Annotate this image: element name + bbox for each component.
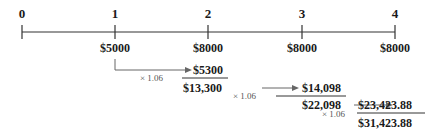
cash-flow-1: $5000 (100, 42, 130, 54)
arrowhead-2-icon (292, 85, 299, 91)
cash-flow-3: $8000 (287, 42, 317, 54)
sum-value-1: $13,300 (183, 82, 222, 94)
arrowhead-1-icon (185, 67, 192, 73)
cash-flow-4: $8000 (380, 42, 410, 54)
period-label-0: 0 (19, 7, 26, 20)
sum-value-3: $31,423.88 (358, 117, 412, 129)
grown-value-1: $5300 (193, 64, 223, 76)
period-label-1: 1 (112, 7, 119, 20)
grown-value-2: $14,098 (302, 82, 341, 94)
arrow-1 (115, 59, 185, 70)
period-label-3: 3 (299, 7, 306, 20)
multiplier-3: × 1.06 (322, 110, 345, 119)
multiplier-1: × 1.06 (140, 74, 163, 83)
multiplier-2: × 1.06 (233, 92, 256, 101)
period-label-4: 4 (392, 7, 399, 20)
grown-value-3: $23,423.88 (358, 99, 412, 111)
cash-flow-2: $8000 (193, 42, 223, 54)
period-label-2: 2 (205, 7, 212, 20)
